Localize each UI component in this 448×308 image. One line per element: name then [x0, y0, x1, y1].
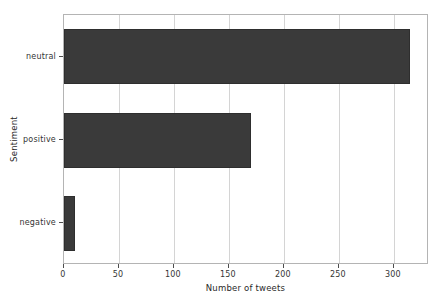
- y-tick-label-neutral: neutral: [26, 51, 56, 60]
- plot-area: [63, 14, 428, 264]
- x-tick-mark: [283, 264, 284, 268]
- bar-neutral: [64, 29, 410, 84]
- y-tick-mark: [59, 222, 63, 223]
- bar-negative: [64, 196, 75, 251]
- x-tick-mark: [63, 264, 64, 268]
- bar-positive: [64, 113, 251, 168]
- y-tick-label-positive: positive: [23, 135, 56, 144]
- x-tick-mark: [393, 264, 394, 268]
- y-tick-mark: [59, 139, 63, 140]
- y-axis-label: Sentiment: [9, 79, 19, 199]
- x-tick-mark: [173, 264, 174, 268]
- x-tick-label: 300: [385, 270, 401, 279]
- x-tick-mark: [338, 264, 339, 268]
- y-tick-label-negative: negative: [19, 218, 56, 227]
- bar-chart-figure: 050100150200250300 negativepositiveneutr…: [0, 0, 448, 308]
- x-axis-label: Number of tweets: [63, 283, 428, 293]
- x-tick-label: 50: [113, 270, 124, 279]
- x-tick-label: 100: [165, 270, 181, 279]
- x-tick-mark: [118, 264, 119, 268]
- y-tick-mark: [59, 56, 63, 57]
- x-tick-label: 250: [330, 270, 346, 279]
- x-tick-mark: [228, 264, 229, 268]
- x-tick-label: 0: [60, 270, 65, 279]
- x-tick-label: 200: [275, 270, 291, 279]
- x-tick-label: 150: [220, 270, 236, 279]
